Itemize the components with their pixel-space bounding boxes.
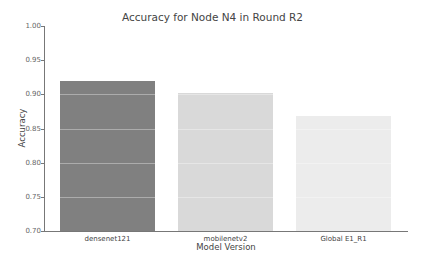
y-tick-label: 0.95 [25,56,41,64]
gridline [44,197,408,198]
x-axis-spine [44,231,408,232]
y-axis-label: Accuracy [17,109,27,148]
y-tick-label: 0.75 [25,193,41,201]
gridline [44,129,408,130]
gridline [44,60,408,61]
y-tick-label: 0.85 [25,125,41,133]
y-tick-label: 1.00 [25,22,41,30]
y-tick-label: 0.70 [25,227,41,235]
bar-global-e1-r1 [296,116,391,231]
y-tick-label: 0.80 [25,159,41,167]
gridline [44,94,408,95]
x-axis-label: Model Version [0,242,425,252]
gridline [44,163,408,164]
bar-densenet121 [60,81,155,231]
y-tick-label: 0.90 [25,90,41,98]
chart-title: Accuracy for Node N4 in Round R2 [0,11,425,23]
y-axis-spine [44,26,45,232]
